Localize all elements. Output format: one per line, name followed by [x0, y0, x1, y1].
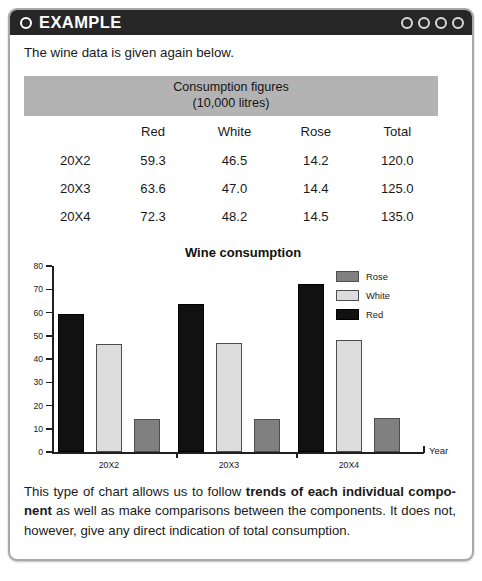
table-caption-line-1: Consumption figures: [24, 80, 438, 96]
chart-legend: RoseWhiteRed: [336, 268, 390, 325]
cell-red: 63.6: [112, 174, 193, 202]
row-label: 20X4: [24, 202, 112, 230]
legend-label: Rose: [366, 271, 388, 282]
intro-paragraph: The wine data is given again below.: [24, 44, 458, 63]
cell-red: 59.3: [112, 146, 193, 174]
legend-label: White: [366, 290, 390, 301]
y-axis-tick-label: 40: [24, 354, 43, 364]
cell-total: 135.0: [357, 202, 438, 230]
y-axis-tick: [46, 358, 52, 360]
bar-20x3-rose: [254, 419, 280, 452]
column-header-white: White: [194, 116, 275, 146]
cell-red: 72.3: [112, 202, 193, 230]
consumption-table: Consumption figures (10,000 litres) Red …: [24, 76, 438, 230]
y-axis: [52, 266, 54, 454]
y-axis-tick: [46, 312, 52, 314]
y-axis-tick-label: 20: [24, 401, 43, 411]
bar-20x4-white: [336, 340, 362, 452]
example-panel: EXAMPLE The wine data is given again bel…: [8, 8, 474, 561]
x-axis-group-tick: [296, 452, 298, 458]
cell-rose: 14.2: [275, 146, 356, 174]
circle-icon: [401, 17, 413, 29]
x-axis-label: Year: [429, 445, 448, 456]
example-content: The wine data is given again below. Cons…: [10, 35, 472, 559]
column-header-blank: [24, 116, 112, 146]
legend-item-red: Red: [336, 306, 390, 322]
chart-title: Wine consumption: [24, 244, 462, 260]
bar-20x2-white: [96, 344, 122, 452]
x-axis-end-cap: [423, 446, 425, 453]
x-axis-group-label: 20X4: [319, 460, 379, 470]
y-axis-tick-label: 50: [24, 331, 43, 341]
y-axis-tick-label: 70: [24, 284, 43, 294]
bar-20x4-red: [298, 284, 324, 452]
x-axis: [52, 452, 424, 454]
header-dot-group: [401, 17, 464, 29]
circle-icon: [435, 17, 447, 29]
column-header-red: Red: [112, 116, 193, 146]
wine-consumption-chart: Wine consumption Year 01020304050607080 …: [24, 244, 462, 462]
row-label: 20X2: [24, 146, 112, 174]
cell-white: 48.2: [194, 202, 275, 230]
footer-text-part-1: This type of chart allows us to follow: [24, 484, 246, 499]
y-axis-tick: [46, 289, 52, 291]
y-axis-tick: [46, 428, 52, 430]
y-axis-tick: [46, 405, 52, 407]
table-row: 20X3 63.6 47.0 14.4 125.0: [24, 174, 438, 202]
table-row: 20X4 72.3 48.2 14.5 135.0: [24, 202, 438, 230]
bar-20x2-rose: [134, 419, 160, 452]
y-axis-tick: [46, 335, 52, 337]
cell-rose: 14.4: [275, 174, 356, 202]
y-axis-tick-label: 0: [24, 447, 43, 457]
column-header-total: Total: [357, 116, 438, 146]
footer-text-part-2: as well as make comparisons between the …: [24, 503, 456, 537]
x-axis-group-label: 20X2: [79, 460, 139, 470]
column-header-rose: Rose: [275, 116, 356, 146]
bar-20x2-red: [58, 314, 84, 452]
legend-swatch-white: [336, 290, 359, 301]
example-header-bar: EXAMPLE: [10, 10, 472, 35]
cell-total: 125.0: [357, 174, 438, 202]
circle-icon: [452, 17, 464, 29]
cell-white: 46.5: [194, 146, 275, 174]
bar-20x3-red: [178, 304, 204, 452]
y-axis-tick-label: 30: [24, 377, 43, 387]
footer-paragraph: This type of chart allows us to follow t…: [24, 482, 456, 540]
bar-20x3-white: [216, 343, 242, 452]
y-axis-tick: [46, 382, 52, 384]
cell-total: 120.0: [357, 146, 438, 174]
legend-item-white: White: [336, 287, 390, 303]
circle-icon: [418, 17, 430, 29]
y-axis-tick-label: 60: [24, 308, 43, 318]
legend-swatch-rose: [336, 271, 359, 282]
chart-plot-area: Year 01020304050607080 20X220X320X4 Rose…: [24, 266, 462, 462]
x-axis-group-label: 20X3: [199, 460, 259, 470]
page-title: EXAMPLE: [39, 14, 122, 31]
cell-white: 47.0: [194, 174, 275, 202]
table-caption: Consumption figures (10,000 litres): [24, 76, 438, 116]
table-row: 20X2 59.3 46.5 14.2 120.0: [24, 146, 438, 174]
table-caption-line-2: (10,000 litres): [24, 96, 438, 112]
y-axis-tick-label: 80: [24, 261, 43, 271]
legend-item-rose: Rose: [336, 268, 390, 284]
table-header-row: Red White Rose Total: [24, 116, 438, 146]
y-axis-tick: [46, 265, 52, 267]
legend-swatch-red: [336, 309, 359, 320]
circle-outline-icon: [20, 17, 32, 29]
bar-20x4-rose: [374, 418, 400, 452]
y-axis-tick: [46, 451, 52, 453]
cell-rose: 14.5: [275, 202, 356, 230]
y-axis-tick-label: 10: [24, 424, 43, 434]
row-label: 20X3: [24, 174, 112, 202]
table-caption-row: Consumption figures (10,000 litres): [24, 76, 438, 116]
legend-label: Red: [366, 309, 383, 320]
x-axis-group-tick: [176, 452, 178, 458]
